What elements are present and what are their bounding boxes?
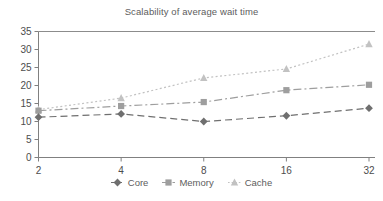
legend-item-cache[interactable]: Cache (228, 178, 272, 188)
data-point-marker (283, 65, 290, 72)
y-tick-label: 35 (20, 26, 32, 37)
data-point-marker (117, 94, 124, 101)
y-tick-label: 20 (20, 80, 32, 91)
data-point-marker (366, 82, 372, 88)
y-tick-label: 25 (20, 62, 32, 73)
y-tick-label: 30 (20, 44, 32, 55)
data-point-marker (365, 104, 373, 112)
y-tick-label: 5 (26, 134, 32, 145)
legend-label: Core (128, 178, 149, 188)
legend-label: Cache (245, 178, 272, 188)
axes-group (35, 32, 376, 162)
data-point-marker (118, 103, 124, 109)
chart-legend: CoreMemoryCache (0, 178, 383, 188)
x-tick-label: 8 (201, 165, 207, 176)
legend-item-memory[interactable]: Memory (162, 178, 213, 188)
data-point-marker (166, 180, 172, 186)
triangle-marker-icon (228, 178, 241, 187)
data-point-marker (200, 74, 207, 81)
series-group (35, 40, 373, 125)
data-point-marker (117, 110, 125, 118)
data-point-marker (35, 113, 43, 121)
data-point-marker (35, 108, 41, 114)
legend-label: Memory (179, 178, 213, 188)
legend-item-core[interactable]: Core (111, 178, 149, 188)
data-point-marker (282, 112, 290, 120)
square-marker-icon (162, 178, 175, 187)
data-point-marker (365, 40, 372, 47)
data-point-marker (200, 118, 208, 126)
data-point-marker (113, 179, 121, 187)
x-tick-label: 4 (118, 165, 124, 176)
x-tick-label: 16 (281, 165, 293, 176)
y-tick-label: 15 (20, 98, 32, 109)
x-tick-label: 2 (36, 165, 42, 176)
y-tick-label: 0 (26, 152, 32, 163)
x-tick-label: 32 (363, 165, 375, 176)
series-line-memory (39, 85, 370, 111)
data-point-marker (283, 87, 289, 93)
chart-plot-area: 051015202530352481632 (0, 0, 383, 201)
diamond-marker-icon (111, 178, 124, 187)
chart-container: Scalability of average wait time 0510152… (0, 0, 383, 201)
y-tick-label: 10 (20, 116, 32, 127)
data-point-marker (201, 99, 207, 105)
tick-labels-group: 051015202530352481632 (20, 26, 375, 175)
